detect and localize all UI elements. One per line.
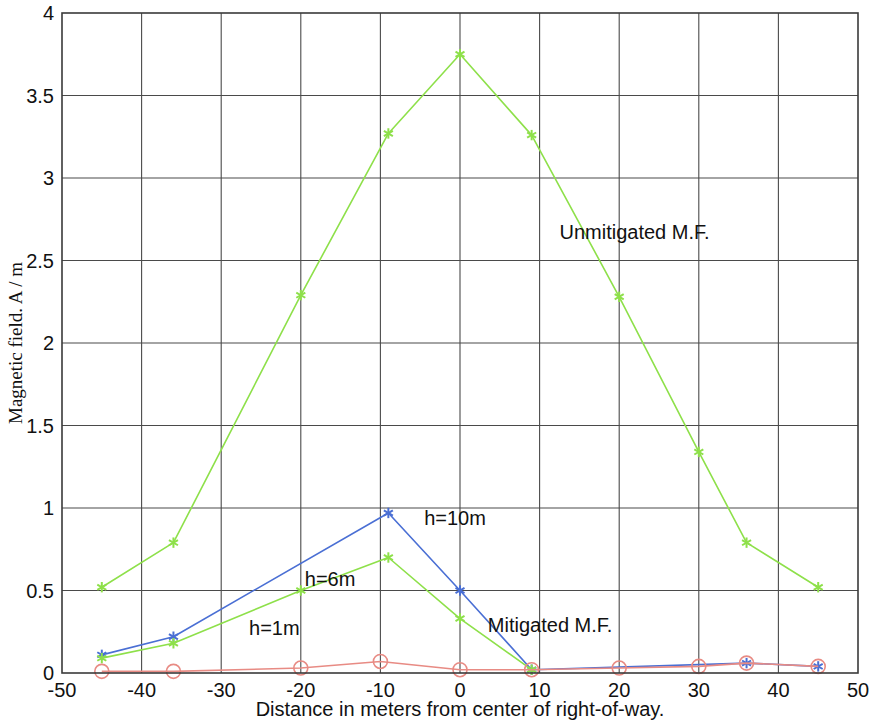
y-axis-title: Magnetic field. A / m bbox=[5, 262, 26, 424]
y-tick-label: 2 bbox=[43, 332, 54, 354]
magnetic-field-line-chart: -50-40-30-20-1001020304050 00.511.522.53… bbox=[0, 0, 872, 723]
x-tick-label: 50 bbox=[847, 679, 869, 701]
y-tick-label: 1.5 bbox=[26, 415, 54, 437]
y-tick-label: 0 bbox=[43, 662, 54, 684]
annotation-label: Unmitigated M.F. bbox=[560, 221, 710, 243]
chart-figure: -50-40-30-20-1001020304050 00.511.522.53… bbox=[0, 0, 872, 723]
y-tick-label: 2.5 bbox=[26, 250, 54, 272]
x-axis-title: Distance in meters from center of right-… bbox=[256, 698, 665, 720]
annotation-label: Mitigated M.F. bbox=[488, 614, 612, 636]
y-tick-label: 3.5 bbox=[26, 85, 54, 107]
x-tick-label: -40 bbox=[127, 679, 156, 701]
annotation-label: h=1m bbox=[249, 617, 300, 639]
y-tick-label: 1 bbox=[43, 497, 54, 519]
annotation-label: h=6m bbox=[305, 568, 356, 590]
y-tick-label: 4 bbox=[43, 2, 54, 24]
x-tick-label: 30 bbox=[688, 679, 710, 701]
chart-background bbox=[0, 0, 872, 723]
y-tick-label: 3 bbox=[43, 167, 54, 189]
y-tick-label: 0.5 bbox=[26, 580, 54, 602]
x-tick-label: 40 bbox=[767, 679, 789, 701]
x-tick-label: -30 bbox=[207, 679, 236, 701]
annotation-label: h=10m bbox=[424, 507, 486, 529]
